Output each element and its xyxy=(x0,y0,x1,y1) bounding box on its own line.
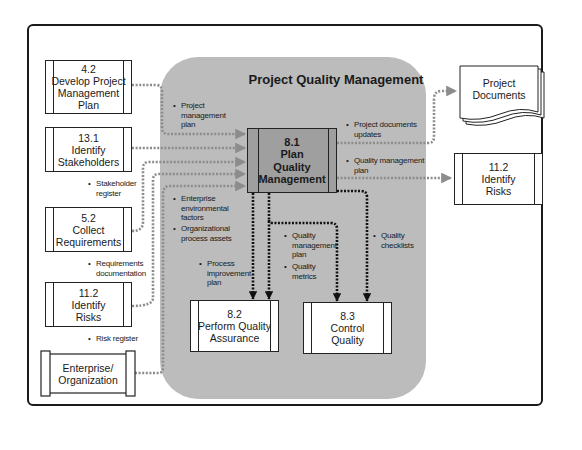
process-name-2: Management xyxy=(46,87,131,99)
documents-line-1: Project xyxy=(460,77,538,89)
label-text: environmental xyxy=(173,204,229,214)
bullet: • xyxy=(173,224,181,234)
label-text: factors xyxy=(173,213,229,223)
process-4-2-develop-pmp: 4.2 Develop Project Management Plan xyxy=(45,60,132,114)
label-text: plan xyxy=(199,278,251,288)
label-process-improvement-plan: •Process improvement plan xyxy=(199,259,251,288)
label-text: plan xyxy=(284,250,337,260)
bullet: • xyxy=(346,120,354,130)
bullet: • xyxy=(346,156,354,166)
label-quality-management-plan-8-3: •Quality management plan xyxy=(284,231,337,260)
process-name-1: Identify xyxy=(455,173,542,185)
label-text: Risk register xyxy=(96,334,138,343)
label-text: management xyxy=(284,241,337,251)
process-5-2-collect-requirements: 5.2 Collect Requirements xyxy=(45,207,132,252)
label-text: Stakeholder xyxy=(96,179,137,188)
process-name-2: Stakeholders xyxy=(46,156,131,168)
label-text: plan xyxy=(346,166,424,176)
label-text: process assets xyxy=(173,234,232,244)
process-id: 8.2 xyxy=(191,308,278,320)
process-name-3: Plan xyxy=(46,99,131,111)
bullet: • xyxy=(173,194,181,204)
label-enterprise-environmental-factors: •Enterprise environmental factors xyxy=(173,194,229,223)
label-text: Organizational xyxy=(181,224,230,233)
bullet: • xyxy=(88,179,96,189)
documents-line-2: Documents xyxy=(460,89,538,101)
label-text: documentation xyxy=(88,269,146,279)
label-text: checklists xyxy=(373,241,414,251)
label-text: Enterprise xyxy=(181,194,215,203)
label-text: improvement xyxy=(199,269,251,279)
process-name-1: Identify xyxy=(46,299,131,311)
process-name-1: Perform Quality xyxy=(191,320,278,332)
process-name-1: Develop Project xyxy=(46,75,131,87)
bullet: • xyxy=(373,231,381,241)
label-risk-register: •Risk register xyxy=(88,334,138,344)
enterprise-line-1: Enterprise/ xyxy=(50,362,126,374)
label-text: Quality xyxy=(292,231,316,240)
label-quality-metrics: •Quality metrics xyxy=(284,262,316,281)
label-text: register xyxy=(88,189,137,199)
label-text: management xyxy=(173,111,226,121)
label-text: plan xyxy=(173,120,226,130)
process-id: 11.2 xyxy=(455,161,542,173)
bullet: • xyxy=(284,262,292,272)
label-text: updates xyxy=(346,130,417,140)
process-11-2-identify-risks-input: 11.2 Identify Risks xyxy=(45,282,132,327)
bullet: • xyxy=(199,259,207,269)
label-text: Quality xyxy=(292,262,316,271)
process-id: 13.1 xyxy=(46,132,131,144)
label-text: Requirements xyxy=(96,259,143,268)
process-name-1: Identify xyxy=(46,144,131,156)
label-organizational-process-assets: •Organizational process assets xyxy=(173,224,232,243)
process-name-2: Risks xyxy=(46,311,131,323)
process-name-2: Quality xyxy=(248,161,336,174)
process-id: 5.2 xyxy=(46,212,131,224)
process-name-3: Management xyxy=(248,173,336,186)
label-text: Quality xyxy=(381,231,405,240)
bullet: • xyxy=(88,334,96,344)
enterprise-organization: Enterprise/ Organization xyxy=(50,354,126,393)
process-8-3-control-quality: 8.3 Control Quality xyxy=(303,302,392,354)
process-name-2: Quality xyxy=(304,334,391,346)
bullet: • xyxy=(173,101,181,111)
label-requirements-documentation: •Requirements documentation xyxy=(88,259,146,278)
process-name-1: Plan xyxy=(248,148,336,161)
process-13-1-identify-stakeholders: 13.1 Identify Stakeholders xyxy=(45,127,132,172)
process-11-2-identify-risks-output: 11.2 Identify Risks xyxy=(454,153,543,205)
process-id: 11.2 xyxy=(46,287,131,299)
project-documents-label: Project Documents xyxy=(460,77,538,101)
process-id: 8.3 xyxy=(304,310,391,322)
label-text: Quality management xyxy=(354,156,424,165)
process-name-1: Collect xyxy=(46,224,131,236)
label-text: Process xyxy=(207,259,235,268)
label-text: Project documents xyxy=(354,120,417,129)
label-text: metrics xyxy=(284,272,316,282)
process-id: 4.2 xyxy=(46,63,131,75)
label-quality-management-plan-out: •Quality management plan xyxy=(346,156,424,175)
enterprise-line-2: Organization xyxy=(50,374,126,386)
bullet: • xyxy=(88,259,96,269)
process-name-2: Risks xyxy=(455,185,542,197)
process-8-1-plan-quality-management: 8.1 Plan Quality Management xyxy=(247,128,337,193)
process-id: 8.1 xyxy=(248,136,336,149)
process-name-2: Assurance xyxy=(191,332,278,344)
label-project-management-plan: •Project management plan xyxy=(173,101,226,130)
process-name-2: Requirements xyxy=(46,236,131,248)
label-text: Project xyxy=(181,101,205,110)
label-project-documents-updates: •Project documents updates xyxy=(346,120,417,139)
label-stakeholder-register: •Stakeholder register xyxy=(88,179,137,198)
process-8-2-perform-quality-assurance: 8.2 Perform Quality Assurance xyxy=(190,300,279,352)
diagram-title: Project Quality Management xyxy=(205,72,467,87)
process-name-1: Control xyxy=(304,322,391,334)
bullet: • xyxy=(284,231,292,241)
label-quality-checklists: •Quality checklists xyxy=(373,231,414,250)
